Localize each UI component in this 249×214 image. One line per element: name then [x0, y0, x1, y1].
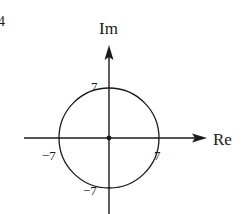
tick-label-right: 7 — [154, 148, 161, 163]
corner-mark: 4 — [0, 14, 5, 29]
imaginary-axis-label: Im — [99, 19, 118, 38]
tick-label-bottom: −7 — [83, 183, 97, 198]
origin-dot — [107, 136, 112, 141]
tick-label-top: 7 — [91, 79, 98, 94]
real-axis-label: Re — [213, 130, 232, 149]
tick-label-left: −7 — [42, 148, 56, 163]
complex-plane-diagram: 4 Im Re 7 7 −7 −7 — [0, 0, 249, 214]
